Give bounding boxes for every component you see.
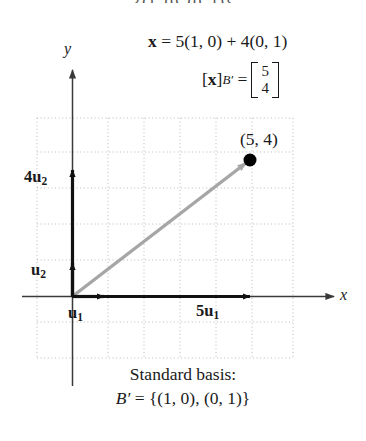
label-u2-base: u [31, 260, 40, 279]
bracket-right [272, 62, 279, 98]
label-u2: u2 [31, 262, 46, 281]
x-axis-label: x [340, 287, 347, 303]
caption-line-1: Standard basis: [130, 364, 236, 384]
equation-expression: 5(1, 0) + 4(0, 1) [175, 31, 287, 51]
equation-vector-symbol: x [148, 31, 157, 51]
column-vector-value-1: 4 [261, 80, 269, 97]
label-u1-base: u [68, 303, 77, 322]
point-label-5-4: (5, 4) [240, 131, 278, 149]
bracket-left [251, 62, 258, 98]
label-4u2: 4u2 [24, 169, 47, 188]
figure-container: {(1, 0), (0, 1)} x = 5(1, 0) + 4(0, 1) [… [0, 0, 366, 441]
coordvec-vector-symbol: x [208, 71, 217, 89]
label-5u1: 5u1 [196, 303, 219, 322]
label-5u1-subscript: 1 [213, 309, 219, 321]
coordvec-subscript: B′ [222, 73, 233, 86]
vector-x-arrow [73, 163, 246, 296]
equation-x-expansion: x = 5(1, 0) + 4(0, 1) [148, 33, 287, 51]
point-marker-5-4 [244, 154, 257, 167]
coordvec-equals: = [233, 71, 247, 89]
column-vector-value-0: 5 [261, 63, 269, 80]
coordinate-vector-expression: [x]B′ = 5 4 [202, 62, 279, 98]
label-5u1-scalar: 5 [196, 301, 204, 320]
column-vector-values: 5 4 [258, 62, 272, 98]
label-u2-subscript: 2 [40, 268, 46, 280]
caption-line-2: B′ = {(1, 0), (0, 1)} [0, 390, 366, 408]
equation-equals: = [157, 31, 176, 51]
label-4u2-scalar: 4 [24, 167, 32, 186]
y-axis-label: y [64, 41, 71, 57]
caption-basis-name: B′ [116, 388, 131, 408]
label-u1-subscript: 1 [77, 311, 83, 323]
clipped-header-text: {(1, 0), (0, 1)} [0, 0, 366, 3]
column-vector: 5 4 [251, 62, 279, 98]
label-u1: u1 [68, 305, 83, 324]
label-4u2-subscript: 2 [41, 175, 47, 187]
caption-basis-set: {(1, 0), (0, 1)} [149, 388, 250, 408]
caption-equals: = [135, 388, 145, 408]
figure-caption: Standard basis: B′ = {(1, 0), (0, 1)} [0, 366, 366, 407]
